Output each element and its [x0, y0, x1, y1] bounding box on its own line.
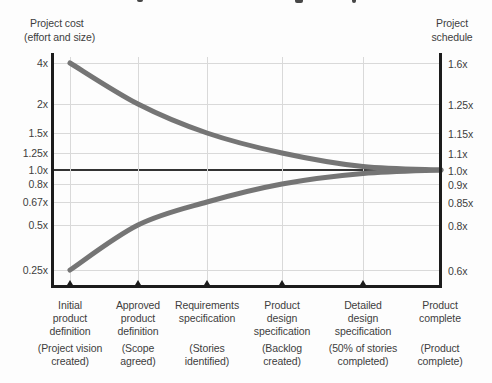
milestone-name: Productdesignspecification	[237, 299, 327, 338]
right-axis-tick-label: 0.85x	[448, 197, 473, 209]
left-axis-line	[51, 53, 54, 288]
left-axis-tick-label: 0.25x	[23, 264, 48, 276]
milestone-label: Productdesignspecification(Backlogcreate…	[237, 299, 327, 379]
right-axis-tick-label: 0.9x	[448, 179, 467, 191]
milestone-label: Productcomplete(Productcomplete)	[395, 299, 485, 379]
left-axis-tick-label: 0.8x	[29, 178, 48, 190]
right-axis-tick-label: 1.0x	[448, 165, 467, 177]
milestone-detail: (Productcomplete)	[395, 342, 485, 368]
right-axis-tick-label: 0.6x	[448, 265, 467, 277]
right-axis-line	[439, 53, 442, 288]
milestone-detail: (Backlogcreated)	[237, 342, 327, 368]
upper-cone-curve	[70, 63, 441, 170]
right-axis-tick-label: 1.6x	[448, 58, 467, 70]
right-axis-tick-label: 1.15x	[448, 128, 473, 140]
lower-cone-curve	[70, 170, 441, 270]
right-axis-tick-label: 1.25x	[448, 99, 473, 111]
left-axis-tick-label: 2x	[37, 98, 48, 110]
right-axis-tick-label: 1.1x	[448, 148, 467, 160]
left-axis-tick-label: 4x	[37, 57, 48, 69]
milestone-name: Productcomplete	[395, 299, 485, 325]
bottom-axis-line	[51, 285, 442, 288]
right-axis-tick-label: 0.8x	[448, 220, 467, 232]
left-axis-tick-label: 0.5x	[29, 219, 48, 231]
left-axis-tick-label: 1.5x	[29, 127, 48, 139]
left-axis-tick-label: 1.0x	[29, 164, 48, 176]
cone-of-uncertainty-chart: Project cost (effort and size) Project s…	[0, 0, 492, 383]
left-axis-tick-label: 1.25x	[23, 147, 48, 159]
left-axis-tick-label: 0.67x	[23, 196, 48, 208]
